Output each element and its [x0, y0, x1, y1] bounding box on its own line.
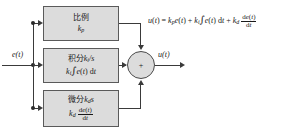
node-proportional-branch — [31, 21, 35, 25]
block-derivative[interactable]: 微分kds kd de(t)dt — [43, 90, 119, 127]
arrow-into-sum-top — [138, 45, 144, 50]
sum-plus-sign: + — [139, 61, 144, 70]
wire-proportional-down — [140, 23, 141, 46]
block-derivative-line1: 微分kds — [68, 95, 94, 106]
kp-subscript: p — [81, 27, 84, 33]
pid-block-diagram: e(t) 比例 kp 积分ki/s ki∫e(t) dt 微分kds — [0, 0, 292, 132]
wire-derivative-out — [119, 108, 141, 109]
input-label: e(t) — [12, 50, 23, 59]
wire-proportional-out — [119, 23, 141, 24]
output-label: u(t) — [158, 50, 170, 59]
pid-formula: u(t) = kpe(t) + ki∫e(t) dt + kd de(t)dt — [148, 14, 256, 29]
formula-derivative-fraction: de(t)dt — [241, 14, 256, 29]
kd-subscript-2: d — [73, 112, 76, 118]
block-proportional[interactable]: 比例 kp — [43, 6, 119, 41]
node-derivative-branch — [31, 106, 35, 110]
block-proportional-cjk: 比例 — [73, 13, 89, 22]
formula-plus-2: + — [226, 16, 231, 25]
block-derivative-line2: kd de(t)dt — [69, 107, 93, 122]
block-proportional-line2: kp — [78, 24, 85, 35]
arrow-output — [180, 62, 185, 68]
block-integral[interactable]: 积分ki/s ki∫e(t) dt — [43, 48, 119, 83]
input-wire — [2, 65, 33, 66]
summing-junction[interactable]: + — [127, 51, 155, 79]
block-integral-line1: 积分ki/s — [68, 54, 95, 65]
block-proportional-line1: 比例 — [73, 13, 89, 23]
derivative-fraction: de(t)dt — [78, 107, 93, 122]
output-wire — [155, 65, 182, 66]
arrow-into-sum-bottom — [138, 80, 144, 85]
formula-plus-1: + — [188, 16, 193, 25]
block-integral-line2: ki∫e(t) dt — [66, 66, 96, 78]
block-derivative-cjk: 微分 — [68, 95, 84, 104]
formula-equals: = — [162, 16, 167, 25]
wire-derivative-up — [140, 84, 141, 108]
block-integral-cjk: 积分 — [68, 54, 84, 63]
